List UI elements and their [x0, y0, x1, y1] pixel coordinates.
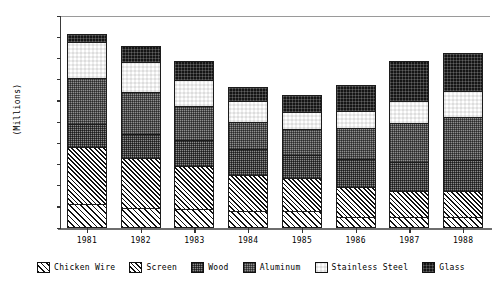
bar-segment[interactable]	[67, 42, 107, 79]
legend-label: Wood	[208, 263, 228, 272]
bar-segment[interactable]	[121, 62, 161, 93]
bar-segment[interactable]	[67, 124, 107, 148]
bar-segment[interactable]	[282, 211, 322, 228]
bar-segment[interactable]	[282, 95, 322, 113]
legend-swatch-icon	[315, 262, 328, 273]
bar-segment[interactable]	[282, 112, 322, 130]
bar-segment[interactable]	[174, 140, 214, 168]
bar-segment[interactable]	[228, 101, 268, 123]
bar-stack[interactable]	[336, 85, 376, 228]
legend-item[interactable]: Stainless Steel	[315, 262, 409, 273]
bar-segment[interactable]	[282, 178, 322, 212]
bar-segment[interactable]	[443, 53, 483, 92]
bar-segment[interactable]	[389, 217, 429, 228]
bar-segment[interactable]	[67, 147, 107, 204]
bar-segment[interactable]	[336, 159, 376, 188]
bar-segment[interactable]	[228, 175, 268, 212]
bar-segment[interactable]	[121, 46, 161, 63]
bar-stack[interactable]	[121, 46, 161, 228]
x-axis-tick-label: 1988	[441, 236, 485, 245]
bar-stack[interactable]	[228, 87, 268, 228]
legend-item[interactable]: Glass	[422, 262, 465, 273]
bar-stack[interactable]	[443, 53, 483, 228]
bar-segment[interactable]	[228, 149, 268, 176]
legend-label: Stainless Steel	[332, 263, 409, 272]
legend-swatch-icon	[37, 262, 50, 273]
bar-segment[interactable]	[389, 101, 429, 124]
bar-segment[interactable]	[174, 61, 214, 81]
x-axis-tick-label: 1986	[334, 236, 378, 245]
bar-stack[interactable]	[282, 95, 322, 228]
bar-segment[interactable]	[336, 187, 376, 219]
legend-item[interactable]: Chicken Wire	[37, 262, 115, 273]
bar-segment[interactable]	[174, 80, 214, 107]
x-axis-tick-mark	[409, 228, 410, 233]
bar-segment[interactable]	[443, 191, 483, 219]
bar-segment[interactable]	[228, 122, 268, 151]
legend-label: Screen	[146, 263, 177, 272]
x-axis-tick-label: 1981	[65, 236, 109, 245]
x-axis-tick-mark	[141, 228, 142, 233]
bar-stack[interactable]	[174, 61, 214, 228]
bar-series-container	[60, 16, 490, 228]
stacked-bar-chart: (Millions) 21.81.61.41.210.80.60.40.20 1…	[0, 0, 502, 285]
bar-segment[interactable]	[228, 87, 268, 102]
bar-segment[interactable]	[389, 162, 429, 192]
bar-segment[interactable]	[336, 85, 376, 113]
legend-swatch-icon	[129, 262, 142, 273]
x-axis-tick-label: 1982	[119, 236, 163, 245]
bar-segment[interactable]	[121, 158, 161, 209]
x-axis-tick-label: 1985	[280, 236, 324, 245]
legend-label: Glass	[439, 263, 465, 272]
x-axis-tick-mark	[302, 228, 303, 233]
bar-segment[interactable]	[443, 160, 483, 192]
legend-swatch-icon	[191, 262, 204, 273]
x-axis-tick-mark	[194, 228, 195, 233]
legend-label: Aluminum	[260, 263, 301, 272]
bar-segment[interactable]	[389, 61, 429, 101]
x-axis-tick-label: 1987	[387, 236, 431, 245]
bar-segment[interactable]	[336, 217, 376, 228]
bar-segment[interactable]	[336, 111, 376, 129]
bar-segment[interactable]	[174, 209, 214, 228]
bar-segment[interactable]	[121, 134, 161, 159]
bar-segment[interactable]	[443, 117, 483, 162]
bar-segment[interactable]	[443, 91, 483, 118]
bar-segment[interactable]	[121, 92, 161, 134]
legend-item[interactable]: Wood	[191, 262, 228, 273]
bar-stack[interactable]	[389, 61, 429, 228]
bar-segment[interactable]	[443, 217, 483, 228]
x-axis-tick-mark	[463, 228, 464, 233]
bar-segment[interactable]	[67, 78, 107, 125]
bar-segment[interactable]	[282, 129, 322, 156]
bar-stack[interactable]	[67, 34, 107, 228]
bar-segment[interactable]	[121, 208, 161, 228]
x-axis-tick-label: 1983	[172, 236, 216, 245]
x-axis-tick-mark	[248, 228, 249, 233]
x-axis-tick-mark	[87, 228, 88, 233]
bar-segment[interactable]	[282, 155, 322, 179]
y-axis-title: (Millions)	[13, 65, 22, 155]
x-axis-tick-label: 1984	[226, 236, 270, 245]
bar-segment[interactable]	[174, 166, 214, 209]
x-axis-labels: 19811982198319841985198619871988	[60, 232, 490, 250]
bar-segment[interactable]	[174, 106, 214, 141]
legend-swatch-icon	[243, 262, 256, 273]
bar-segment[interactable]	[336, 128, 376, 160]
legend-item[interactable]: Screen	[129, 262, 177, 273]
legend-swatch-icon	[422, 262, 435, 273]
bar-segment[interactable]	[389, 191, 429, 219]
legend-item[interactable]: Aluminum	[243, 262, 301, 273]
chart-legend: Chicken WireScreenWoodAluminumStainless …	[0, 258, 502, 276]
x-axis-line	[58, 228, 492, 230]
bar-segment[interactable]	[67, 204, 107, 228]
legend-label: Chicken Wire	[54, 263, 115, 272]
bar-segment[interactable]	[389, 123, 429, 163]
bar-segment[interactable]	[228, 211, 268, 228]
x-axis-tick-mark	[356, 228, 357, 233]
